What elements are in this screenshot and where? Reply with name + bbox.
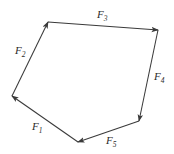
vector-label-F1: F1 bbox=[32, 121, 42, 134]
vector-label-F2: F2 bbox=[15, 45, 25, 58]
vector-label-F2-subscript: 2 bbox=[22, 50, 26, 59]
vector-polygon-svg bbox=[0, 0, 174, 154]
vector-label-F3: F3 bbox=[97, 9, 107, 22]
vector-line-F1 bbox=[12, 96, 78, 142]
vector-label-F2-base: F bbox=[15, 44, 22, 56]
vector-label-F3-subscript: 3 bbox=[104, 14, 108, 23]
vector-label-F4-subscript: 4 bbox=[161, 76, 165, 85]
vector-label-F1-base: F bbox=[32, 120, 39, 132]
vector-label-F5-subscript: 5 bbox=[113, 140, 117, 149]
vector-line-F2 bbox=[12, 22, 48, 96]
vector-label-F5-base: F bbox=[106, 134, 113, 146]
force-polygon-figure: F1 F2 F3 F4 F5 bbox=[0, 0, 174, 154]
vector-line-F3 bbox=[48, 22, 158, 30]
vector-label-F3-base: F bbox=[97, 8, 104, 20]
vector-label-F5: F5 bbox=[106, 135, 116, 148]
vector-label-F4: F4 bbox=[154, 71, 164, 84]
vector-label-F4-base: F bbox=[154, 70, 161, 82]
vector-label-F1-subscript: 1 bbox=[39, 126, 43, 135]
